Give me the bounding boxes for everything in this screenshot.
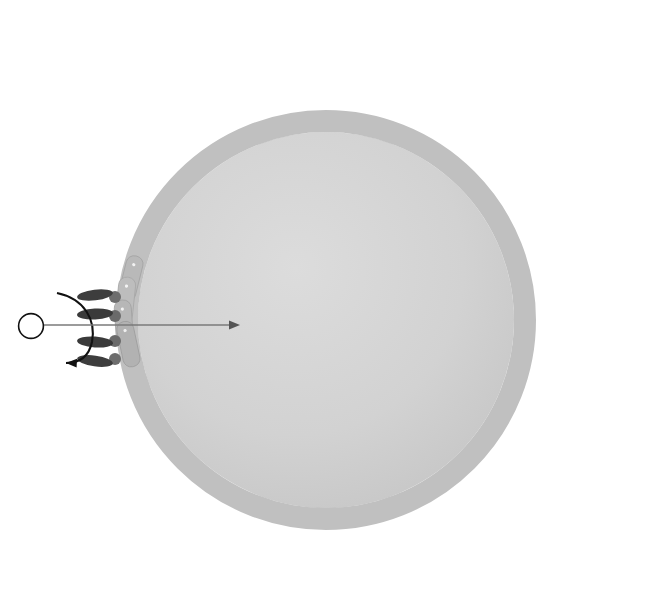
vesicle-lumen-area <box>138 132 514 508</box>
figure-canvas <box>0 0 648 610</box>
synaptic-vesicle-illustration <box>0 0 648 610</box>
proton-circle <box>19 314 44 339</box>
